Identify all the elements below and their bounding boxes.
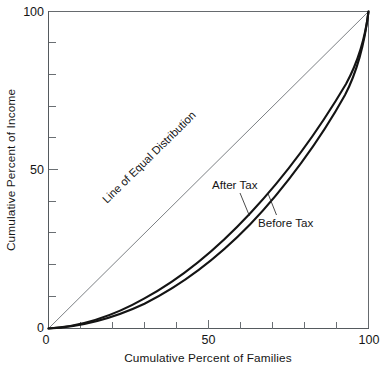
- x-axis-label-100: 100: [359, 333, 380, 347]
- lorenz-curve-chart: 100 50 0 0 50 100 Cumulative Percent of …: [0, 0, 382, 370]
- after-tax-leader-line: [240, 193, 250, 216]
- x-axis-label-0: 0: [43, 333, 50, 347]
- after-tax-label: After Tax: [212, 178, 258, 191]
- y-axis-title: Cumulative Percent of Income: [4, 89, 18, 252]
- chart-canvas: 100 50 0 0 50 100 Cumulative Percent of …: [0, 0, 382, 370]
- equality-line: [49, 12, 369, 329]
- y-axis-label-50: 50: [30, 163, 44, 177]
- x-axis-label-50: 50: [202, 333, 216, 347]
- y-axis-label-100: 100: [23, 5, 44, 19]
- x-axis-title: Cumulative Percent of Families: [124, 351, 292, 365]
- before-tax-label: Before Tax: [258, 216, 313, 229]
- equality-line-label: Line of Equal Distribution: [100, 109, 198, 206]
- x-axis-ticks: [81, 320, 337, 329]
- y-axis-ticks: [49, 43, 58, 297]
